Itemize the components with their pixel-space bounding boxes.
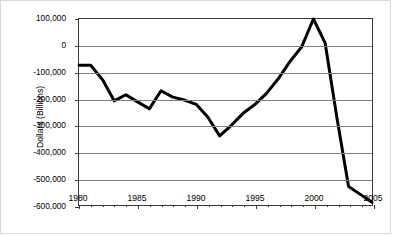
y-tick-label: -600,000 <box>33 201 66 211</box>
y-tick-label: 100,000 <box>36 13 66 23</box>
y-tick-label: -500,000 <box>33 174 66 184</box>
y-tick-mark <box>75 100 79 101</box>
y-tick-mark <box>75 153 79 154</box>
gridline <box>79 73 372 74</box>
x-tick-minor <box>162 205 163 207</box>
x-tick-major <box>197 205 198 209</box>
gridline <box>79 153 372 154</box>
y-tick-label: 0 <box>61 40 66 50</box>
x-tick-minor <box>362 205 363 207</box>
chart-container: Dollars (Billions) 100,0000-100,000-200,… <box>0 0 391 234</box>
x-tick-label: 2000 <box>304 193 323 203</box>
x-tick-minor <box>244 205 245 207</box>
x-tick-major <box>374 205 375 209</box>
y-tick-label: -400,000 <box>33 147 66 157</box>
x-tick-minor <box>185 205 186 207</box>
y-tick-mark <box>75 180 79 181</box>
x-tick-minor <box>103 205 104 207</box>
y-tick-label: -300,000 <box>33 120 66 130</box>
x-tick-major <box>138 205 139 209</box>
y-tick-label: -100,000 <box>33 67 66 77</box>
x-tick-minor <box>232 205 233 207</box>
y-tick-mark <box>75 19 79 20</box>
x-tick-major <box>315 205 316 209</box>
x-tick-minor <box>291 205 292 207</box>
gridline <box>79 46 372 47</box>
x-tick-major <box>79 205 80 209</box>
y-tick-mark <box>75 46 79 47</box>
x-tick-minor <box>209 205 210 207</box>
x-tick-minor <box>221 205 222 207</box>
gridline <box>79 180 372 181</box>
x-tick-minor <box>114 205 115 207</box>
y-tick-mark <box>75 126 79 127</box>
x-tick-minor <box>268 205 269 207</box>
x-tick-label: 1990 <box>186 193 205 203</box>
x-tick-major <box>256 205 257 209</box>
x-tick-label: 1985 <box>127 193 146 203</box>
x-tick-minor <box>150 205 151 207</box>
gridline <box>79 100 372 101</box>
x-tick-minor <box>350 205 351 207</box>
x-tick-minor <box>126 205 127 207</box>
x-tick-minor <box>303 205 304 207</box>
x-tick-minor <box>173 205 174 207</box>
x-tick-label: 2005 <box>363 193 382 203</box>
x-tick-minor <box>327 205 328 207</box>
x-tick-minor <box>339 205 340 207</box>
y-tick-mark <box>75 73 79 74</box>
x-tick-minor <box>91 205 92 207</box>
x-tick-label: 1980 <box>68 193 87 203</box>
gridline <box>79 126 372 127</box>
x-tick-label: 1995 <box>245 193 264 203</box>
y-tick-label: -200,000 <box>33 94 66 104</box>
x-tick-minor <box>280 205 281 207</box>
data-series-line <box>79 19 372 205</box>
plot-area <box>78 18 373 206</box>
